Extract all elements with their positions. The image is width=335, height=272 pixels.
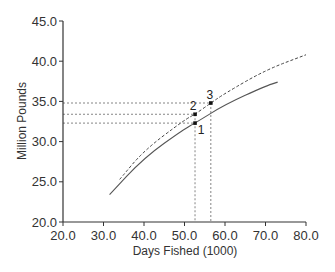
plot-area: 123 [63, 55, 306, 222]
x-tick-label: 40.0 [131, 228, 156, 243]
y-tick-label: 25.0 [32, 174, 57, 189]
x-tick-label: 80.0 [293, 228, 318, 243]
y-tick-label: 40.0 [32, 54, 57, 69]
x-tick-label: 60.0 [212, 228, 237, 243]
annotation-label: 1 [198, 123, 205, 137]
x-tick-label: 50.0 [172, 228, 197, 243]
annotation-label: 3 [206, 88, 213, 102]
dashed-curve [120, 55, 306, 180]
y-tick-label: 45.0 [32, 14, 57, 29]
x-tick-label: 30.0 [91, 228, 116, 243]
x-axis-title: Days Fished (1000) [133, 244, 238, 258]
annotation-marker [193, 121, 197, 125]
chart: 123 20.025.030.035.040.045.020.030.040.0… [0, 0, 335, 272]
y-axis-title: Million Pounds [15, 82, 29, 160]
y-tick-label: 30.0 [32, 134, 57, 149]
y-tick-label: 35.0 [32, 94, 57, 109]
annotation-label: 2 [190, 99, 197, 113]
x-tick-label: 70.0 [253, 228, 278, 243]
axes: 20.025.030.035.040.045.020.030.040.050.0… [32, 14, 319, 244]
x-tick-label: 20.0 [50, 228, 75, 243]
